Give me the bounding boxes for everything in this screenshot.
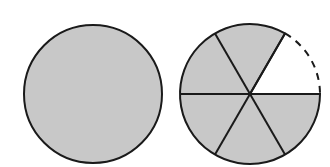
divided-circle (180, 24, 320, 164)
whole-circle (24, 25, 162, 163)
missing-sector-dashed-arc (285, 33, 320, 94)
fraction-diagram (0, 0, 330, 167)
